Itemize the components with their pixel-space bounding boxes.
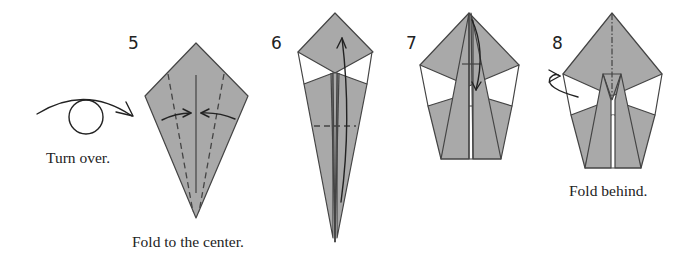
origami-diagram: 5 6 7 8 Turn over. Fold to the center. F… (0, 0, 700, 261)
step-5-kite (145, 43, 248, 218)
turn-over-icon (37, 99, 133, 134)
step-8-model (549, 13, 662, 168)
step-6-model (298, 13, 373, 242)
step-7-model (420, 13, 519, 159)
